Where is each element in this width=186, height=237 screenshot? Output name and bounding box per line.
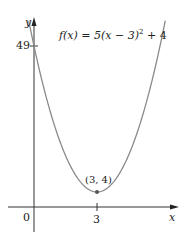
parabola-chart: y 49 f(x) = 5(x − 3)2 + 4 (3, 4) 0 3 x	[0, 0, 186, 237]
y-axis-label: y	[25, 17, 31, 28]
x-axis-label: x	[169, 212, 175, 223]
function-label-suffix: + 4	[144, 29, 167, 42]
x-tick-label-3: 3	[93, 214, 100, 225]
vertex-label: (3, 4)	[85, 175, 112, 185]
y-tick-label-49: 49	[16, 40, 30, 51]
function-label: f(x) = 5(x − 3)2 + 4	[59, 29, 167, 41]
x-axis-arrow-icon	[170, 205, 179, 210]
y-axis-arrow-icon	[32, 17, 37, 26]
origin-label: 0	[23, 212, 30, 223]
vertex-point	[95, 190, 99, 194]
function-label-base: f(x) = 5(x − 3)	[59, 29, 139, 42]
parabola-curve	[29, 21, 166, 192]
